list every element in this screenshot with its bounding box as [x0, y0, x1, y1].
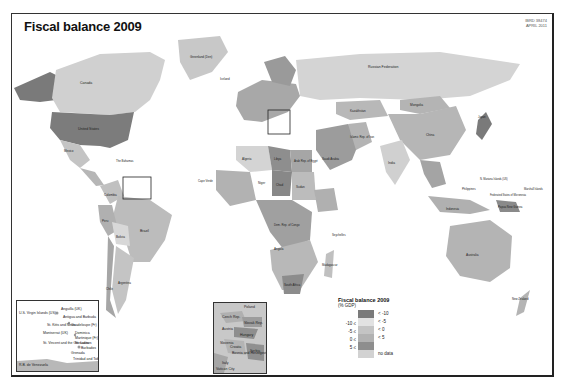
- label-united-states: United States: [78, 127, 99, 131]
- label-south-africa: South Africa: [284, 283, 301, 287]
- legend-subtitle: (% GDP): [338, 303, 428, 308]
- label-greenland: Greenland (Den): [190, 55, 212, 59]
- label-brazil: Brazil: [140, 229, 149, 233]
- legend-swatch: [358, 326, 374, 334]
- legend-swatch: [358, 318, 374, 326]
- label-cape-verde: Cape Verde: [198, 179, 213, 183]
- label-indonesia: Indonesia: [446, 207, 459, 211]
- label-bolivia: Bolivia: [116, 235, 125, 239]
- label-china: China: [426, 133, 435, 137]
- label-madagascar: Madagascar: [322, 263, 337, 267]
- label-libya: Libya: [274, 157, 282, 161]
- label-iceland: Iceland: [220, 77, 230, 81]
- legend-swatch: [358, 334, 374, 342]
- legend-row: -5 ≤ < 0: [338, 326, 428, 334]
- legend-row: no data: [338, 350, 428, 358]
- label-chad: Chad: [276, 183, 284, 187]
- legend-row: 0 ≤ < 5: [338, 334, 428, 342]
- country-australia: [446, 220, 512, 282]
- label-png: Papua New Guinea: [498, 205, 523, 209]
- country-india: [380, 140, 410, 185]
- legend-swatch: [358, 350, 374, 358]
- label-chile: Chile: [106, 287, 113, 291]
- label-iran: Islamic Rep. of Iran: [350, 135, 375, 139]
- label-peru: Peru: [102, 219, 109, 223]
- label-mexico: Mexico: [64, 149, 74, 153]
- label-saudi-arabia: Saudi Arabia: [322, 157, 339, 161]
- label-micronesia: Federated States of Micronesia: [490, 193, 527, 197]
- country-canada: [52, 52, 165, 115]
- central-america: [80, 168, 104, 186]
- label-philippines: Philippines: [462, 187, 476, 191]
- country-russia: [296, 52, 520, 100]
- southeast-asia: [420, 160, 446, 188]
- label-n-mariana: N. Mariana Islands (US): [480, 177, 508, 181]
- west-africa: [216, 170, 256, 206]
- label-mongolia: Mongolia: [410, 103, 423, 107]
- label-seychelles: Seychelles: [332, 233, 346, 237]
- legend-swatch: [358, 310, 374, 318]
- label-drc: Dem. Rep. of Congo: [274, 223, 300, 227]
- label-kazakhstan: Kazakhstan: [350, 109, 366, 113]
- country-ethiopia: [314, 188, 338, 212]
- country-argentina: [112, 246, 134, 314]
- label-algeria: Algeria: [242, 157, 252, 161]
- label-canada: Canada: [80, 81, 92, 85]
- legend-row: < -10: [338, 310, 428, 318]
- caribbean-inset: U.S. Virgin Islands (US) Anguilla (UK) A…: [16, 300, 99, 372]
- label-argentina: Argentina: [118, 281, 131, 285]
- label-japan: Japan: [478, 115, 486, 119]
- label-new-zealand: New Zealand: [512, 297, 529, 301]
- label-niger: Niger: [258, 181, 265, 185]
- legend-row: -10 ≤ < -5: [338, 318, 428, 326]
- label-egypt: Arab Rep. of Egypt: [294, 159, 318, 163]
- country-new-zealand: [516, 290, 530, 316]
- caribbean-inset-marker: [123, 177, 151, 199]
- label-angola: Angola: [274, 247, 284, 251]
- legend-row: 5 ≤: [338, 342, 428, 350]
- label-sudan: Sudan: [296, 185, 305, 189]
- label-marshall: Marshall Islands: [524, 187, 543, 191]
- europe-inset: Poland Czech Rep. Slovak Rep. Austria Hu…: [213, 302, 267, 374]
- legend-swatch: [358, 342, 374, 350]
- legend: Fiscal balance 2009 (% GDP) < -10 -10 ≤ …: [338, 297, 428, 358]
- country-indonesia: [428, 196, 490, 214]
- label-australia: Australia: [466, 253, 479, 257]
- label-india: India: [388, 161, 395, 165]
- label-the-bahamas: The Bahamas: [116, 159, 134, 163]
- label-colombia: Colombia: [104, 193, 117, 197]
- label-russia: Russian Federation: [368, 65, 398, 69]
